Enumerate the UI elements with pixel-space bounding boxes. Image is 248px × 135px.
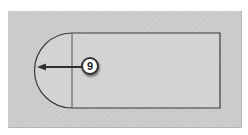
diagram-canvas [0, 0, 248, 135]
callout-number: 9 [87, 61, 93, 72]
callout-badge: 9 [81, 57, 99, 75]
rounded-end-shape [35, 33, 221, 108]
